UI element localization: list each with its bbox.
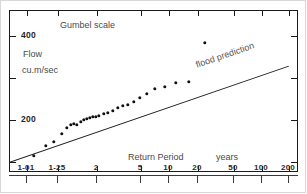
x-axis-baseline (9, 175, 298, 176)
x-axis-tick (261, 176, 262, 183)
data-point (32, 154, 35, 157)
data-point (163, 85, 166, 88)
x-tick-label: 200 (281, 163, 295, 172)
x-axis-tick (197, 176, 198, 183)
data-point (44, 144, 47, 147)
data-point (116, 106, 119, 109)
data-point (60, 132, 63, 135)
data-point (187, 80, 190, 83)
x-axis-tick (96, 176, 97, 183)
chart-title: Gumbel scale (60, 20, 115, 30)
x-axis-label: Return Period (128, 152, 184, 162)
data-point (174, 81, 177, 84)
y-tick-label: 400 (21, 30, 36, 40)
y-tick-label: 200 (21, 114, 36, 124)
chart-screenshot: Gumbel scale Flow cu.m/sec Return Period… (0, 0, 307, 194)
data-point (138, 96, 141, 99)
x-tick-label: 5 (138, 163, 143, 172)
plot-data-layer (9, 10, 298, 172)
data-point (75, 123, 78, 126)
data-point (126, 103, 129, 106)
x-axis-tick (233, 176, 234, 183)
data-point (153, 87, 156, 90)
x-tick-label: 2 (94, 163, 99, 172)
x-axis-tick (26, 176, 27, 183)
data-point (121, 104, 124, 107)
x-axis-tick (288, 176, 289, 183)
x-axis-tick (140, 176, 141, 183)
data-point (65, 126, 68, 129)
x-tick-label: 100 (254, 163, 268, 172)
data-point (145, 92, 148, 95)
x-tick-label: 50 (228, 163, 237, 172)
x-tick-label: 1-01 (18, 163, 35, 172)
flood-prediction-line (9, 66, 289, 164)
x-tick-label: 20 (192, 163, 201, 172)
data-point (106, 111, 109, 114)
data-point (132, 100, 135, 103)
data-point (97, 114, 100, 117)
data-point (102, 112, 105, 115)
y-axis-label-line1: Flow (23, 49, 42, 59)
data-point (52, 140, 55, 143)
data-point (203, 41, 206, 44)
x-tick-label: 10 (163, 163, 172, 172)
x-axis-tick (168, 176, 169, 183)
y-axis-label-line2: cu.m/sec (22, 65, 58, 75)
x-axis-tick (57, 176, 58, 183)
x-axis-units-label: years (216, 152, 238, 162)
data-point (111, 109, 114, 112)
x-tick-label: 1-25 (49, 163, 66, 172)
